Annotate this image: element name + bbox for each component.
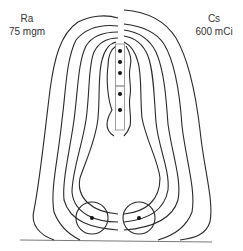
baseline [20, 240, 212, 242]
left-isodose-5 [79, 42, 118, 214]
isodose-diagram [0, 0, 243, 251]
tandem-source-dot [118, 108, 122, 112]
left-isodose-4 [72, 38, 118, 222]
left-isodose-6 [107, 46, 116, 136]
left-ovoid-source-dot [90, 216, 94, 220]
tandem-sources [118, 49, 122, 112]
left-isodose-1 [33, 16, 118, 240]
right-isodose-2 [124, 24, 193, 240]
left-isodose-curves [33, 16, 118, 240]
tandem-source-dot [118, 92, 122, 96]
tandem-source-dot [118, 71, 122, 75]
right-isodose-1 [124, 10, 211, 240]
right-ovoid-source-dot [137, 216, 141, 220]
tandem-source-dot [118, 49, 122, 53]
tandem-applicator [116, 44, 125, 130]
left-isodose-3 [64, 32, 118, 230]
right-isodose-6 [124, 46, 131, 136]
tandem-source-dot [118, 60, 122, 64]
right-isodose-curves [123, 10, 211, 240]
